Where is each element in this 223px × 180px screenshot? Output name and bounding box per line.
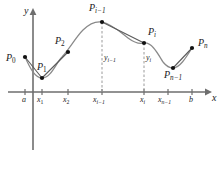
tick-label-x1: x1 [37, 96, 43, 105]
arc-length-figure: P0 P1 P2 Pi−1 Pi Pn−1 Pn yi−1 yi a x1 x2… [0, 0, 223, 180]
tick-label-xi-1: xi−1 [93, 96, 105, 105]
y-axis [30, 8, 37, 150]
point-dot-Pn [190, 46, 194, 50]
point-label-P0: P0 [6, 53, 16, 65]
point-dot-P2 [66, 50, 70, 54]
point-label-Pn-1: Pn−1 [164, 70, 182, 82]
point-dot-P1 [40, 76, 44, 80]
tick-label-xi: xi [140, 96, 145, 105]
y-axis-arrow-icon [30, 8, 37, 15]
tick-label-xn-1: xn−1 [158, 96, 171, 105]
point-label-Pn: Pn [198, 38, 208, 50]
point-label-Pi-1: Pi−1 [89, 3, 106, 15]
point-label-Pi: Pi [148, 27, 156, 39]
tick-label-b: b [189, 96, 193, 104]
x-axis-label: x [212, 93, 216, 103]
point-label-P2: P2 [55, 36, 65, 48]
chord-Pi-1-Pi [102, 22, 144, 43]
point-label-P1: P1 [37, 62, 47, 74]
point-dot-Pi [142, 41, 146, 45]
tick-label-a: a [22, 96, 26, 104]
figure-canvas [0, 0, 223, 180]
chord-Pn-1-Pn [173, 48, 192, 68]
x-axis-arrow-icon [205, 88, 212, 95]
y-axis-label: y [24, 6, 28, 16]
ordinate-label-yi-1: yi−1 [104, 54, 116, 63]
point-dot-Pi-1 [100, 20, 104, 24]
ordinate-label-yi: yi [146, 54, 151, 63]
tick-label-x2: x2 [63, 96, 69, 105]
point-dot-P0 [23, 55, 27, 59]
